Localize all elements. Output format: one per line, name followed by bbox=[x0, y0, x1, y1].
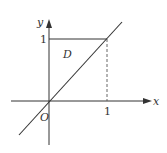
x-tick-label: 1 bbox=[104, 105, 111, 118]
y-axis-label: y bbox=[36, 16, 44, 29]
diagram-canvas: y 1 D x 1 O bbox=[0, 0, 167, 153]
x-axis-arrow-icon bbox=[143, 98, 152, 104]
region-label: D bbox=[62, 48, 72, 61]
y-tick-label: 1 bbox=[40, 33, 47, 46]
x-axis-label: x bbox=[153, 95, 160, 108]
coordinate-diagram: y 1 D x 1 O bbox=[0, 0, 167, 153]
y-axis-arrow-icon bbox=[46, 19, 52, 28]
origin-label: O bbox=[40, 111, 49, 124]
